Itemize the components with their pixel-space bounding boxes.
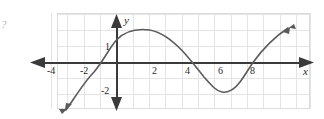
graph-figure: ? xyxy=(0,0,324,119)
x-tick-label-neg4: -4 xyxy=(47,65,55,76)
coordinate-plane: -4 -2 2 4 6 8 1 -2 y x xyxy=(0,0,324,119)
x-tick-label-6: 6 xyxy=(218,65,223,76)
y-tick-label-neg2: -2 xyxy=(101,85,109,96)
x-tick-label-2: 2 xyxy=(152,65,157,76)
x-tick-label-4: 4 xyxy=(185,65,190,76)
x-tick-label-neg2: -2 xyxy=(80,65,88,76)
x-tick-label-8: 8 xyxy=(250,65,255,76)
y-axis-label: y xyxy=(123,14,129,26)
grid-lines xyxy=(52,13,311,109)
y-tick-label-1: 1 xyxy=(105,41,110,52)
x-axis-label: x xyxy=(302,65,308,77)
